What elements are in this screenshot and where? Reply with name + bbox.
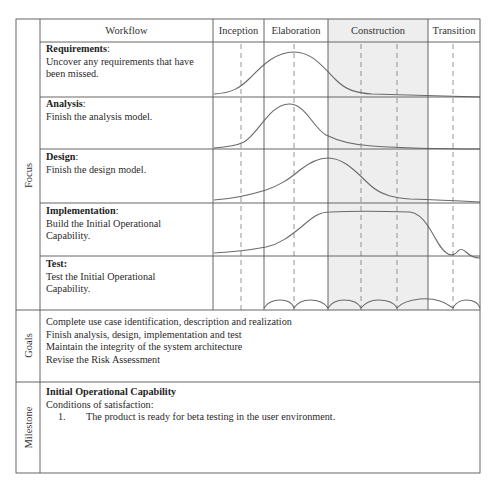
workflow-title: Implementation: xyxy=(46,205,181,218)
phase-header-transition: Transition xyxy=(428,25,480,36)
milestone-title: Initial Operational Capability xyxy=(46,386,466,399)
milestone-content: Initial Operational Capability Condition… xyxy=(46,386,466,424)
condition-text: The product is ready for beta testing in… xyxy=(86,411,335,422)
milestone-subtitle: Conditions of satisfaction: xyxy=(46,399,466,412)
workflow-description: Finish the analysis model. xyxy=(46,111,210,124)
section-label-goals: Goals xyxy=(23,316,34,376)
goal-item: Revise the Risk Assessment xyxy=(46,354,466,367)
workflow-description: Build the Initial Operational Capability… xyxy=(46,218,181,243)
goal-item: Complete use case identification, descri… xyxy=(46,316,466,329)
workflow-title: Requirements: xyxy=(46,43,210,56)
milestone-condition-item: 1.The product is ready for beta testing … xyxy=(46,411,466,424)
workflow-column-header: Workflow xyxy=(40,25,213,36)
phase-header-construction: Construction xyxy=(328,25,428,36)
section-label-focus: Focus xyxy=(23,146,34,206)
workflow-row-requirements: Requirements: Uncover any requirements t… xyxy=(46,43,210,81)
workflow-title: Test: xyxy=(46,258,181,271)
workflow-row-design: Design: Finish the design model. xyxy=(46,151,210,176)
goal-item: Finish analysis, design, implementation … xyxy=(46,329,466,342)
phase-header-inception: Inception xyxy=(213,25,264,36)
goals-list: Complete use case identification, descri… xyxy=(46,316,466,366)
workflow-row-analysis: Analysis: Finish the analysis model. xyxy=(46,98,210,123)
workflow-row-implementation: Implementation: Build the Initial Operat… xyxy=(46,205,181,243)
phase-header-elaboration: Elaboration xyxy=(264,25,328,36)
construction-phase-shading xyxy=(328,19,428,310)
workflow-description: Uncover any requirements that have been … xyxy=(46,56,210,81)
workflow-row-test: Test: Test the Initial Operational Capab… xyxy=(46,258,181,296)
section-label-milestone: Milestone xyxy=(23,398,34,458)
workflow-description: Finish the design model. xyxy=(46,164,210,177)
goal-item: Maintain the integrity of the system arc… xyxy=(46,341,466,354)
workflow-title: Analysis: xyxy=(46,98,210,111)
condition-number: 1. xyxy=(46,411,86,424)
workflow-description: Test the Initial Operational Capability. xyxy=(46,271,181,296)
milestone-conditions-list: 1.The product is ready for beta testing … xyxy=(46,411,466,424)
workflow-title: Design: xyxy=(46,151,210,164)
